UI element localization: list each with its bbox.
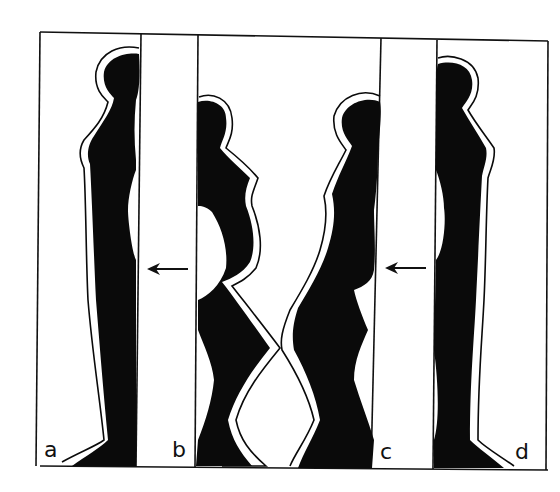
- arrow-left-ab-icon: [147, 263, 188, 275]
- posture-figure: a b c d: [0, 0, 560, 492]
- arrow-left-cd-icon: [385, 262, 426, 274]
- panel-label-d: d: [515, 439, 529, 464]
- silhouette-a: [62, 47, 140, 466]
- silhouette-c: [281, 93, 381, 468]
- silhouette-b: [196, 95, 280, 466]
- panel-label-a: a: [44, 437, 57, 462]
- panel-label-c: c: [380, 439, 392, 464]
- panel-label-b: b: [172, 437, 186, 462]
- silhouette-d: [434, 57, 514, 468]
